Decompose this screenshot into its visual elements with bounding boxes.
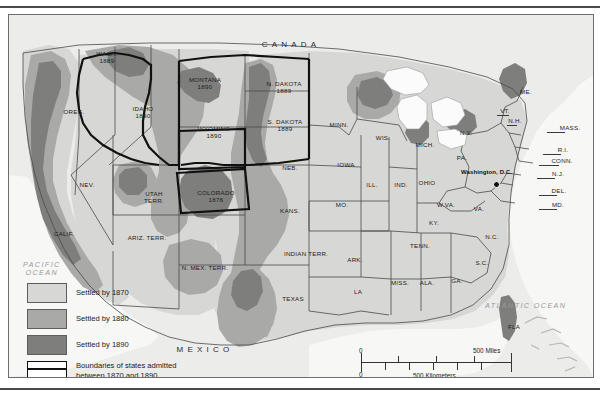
scale-end-tick bbox=[511, 353, 512, 372]
scale-start-tick bbox=[361, 353, 362, 372]
legend-label-1870: Settled by 1870 bbox=[76, 288, 129, 298]
map-legend: Settled by 1870 Settled by 1880 Settled … bbox=[27, 283, 242, 378]
legend-item-settled-1880: Settled by 1880 bbox=[27, 309, 242, 329]
legend-swatch-boundary-rule bbox=[28, 368, 66, 370]
bottom-rule bbox=[0, 388, 600, 390]
scale-tick-km-2 bbox=[409, 363, 410, 370]
legend-swatch-1880 bbox=[27, 309, 67, 329]
top-rule bbox=[0, 6, 600, 8]
scale-label-miles: 500 Miles bbox=[473, 347, 500, 354]
scale-tick-miles-2 bbox=[436, 356, 437, 363]
legend-label-boundaries: Boundaries of states admitted between 18… bbox=[76, 361, 176, 378]
scale-label-kilometers: 500 Kilometers bbox=[413, 372, 456, 378]
map-canvas: OREG.WASH.1889IDAHO1890MONTANA1890N. DAK… bbox=[8, 14, 594, 378]
leader-vt bbox=[497, 115, 509, 116]
scale-tick-miles-3 bbox=[474, 356, 475, 363]
scale-tick-km-3 bbox=[433, 363, 434, 370]
legend-item-admitted-boundaries: Boundaries of states admitted between 18… bbox=[27, 361, 242, 378]
settled-1890-nv-ut bbox=[119, 167, 147, 195]
leader-nj bbox=[537, 178, 555, 179]
leader-nh bbox=[507, 125, 517, 126]
scale-tick-km-5 bbox=[481, 363, 482, 370]
map-scale-bar: 0 0 500 Miles 500 Kilometers bbox=[361, 345, 551, 378]
map-figure: OREG.WASH.1889IDAHO1890MONTANA1890N. DAK… bbox=[0, 0, 600, 398]
washington-dc-marker bbox=[493, 181, 500, 188]
scale-tick-miles-1 bbox=[398, 356, 399, 363]
legend-label-boundaries-line1: Boundaries of states admitted bbox=[76, 361, 176, 370]
legend-label-boundaries-line2: between 1870 and 1890 bbox=[76, 371, 158, 378]
legend-label-1890: Settled by 1890 bbox=[76, 340, 129, 350]
leader-md bbox=[539, 209, 557, 210]
legend-label-1880: Settled by 1880 bbox=[76, 314, 129, 324]
scale-tick-km-1 bbox=[385, 363, 386, 370]
leader-conn bbox=[539, 165, 559, 166]
scale-tick-km-4 bbox=[457, 363, 458, 370]
leader-mass bbox=[547, 132, 565, 133]
legend-swatch-1870 bbox=[27, 283, 67, 303]
leader-ri bbox=[543, 154, 561, 155]
legend-item-settled-1870: Settled by 1870 bbox=[27, 283, 242, 303]
legend-item-settled-1890: Settled by 1890 bbox=[27, 335, 242, 355]
scale-km-zero: 0 bbox=[359, 371, 363, 378]
legend-swatch-boundary bbox=[27, 361, 67, 378]
leader-del bbox=[539, 195, 557, 196]
legend-swatch-1890 bbox=[27, 335, 67, 355]
